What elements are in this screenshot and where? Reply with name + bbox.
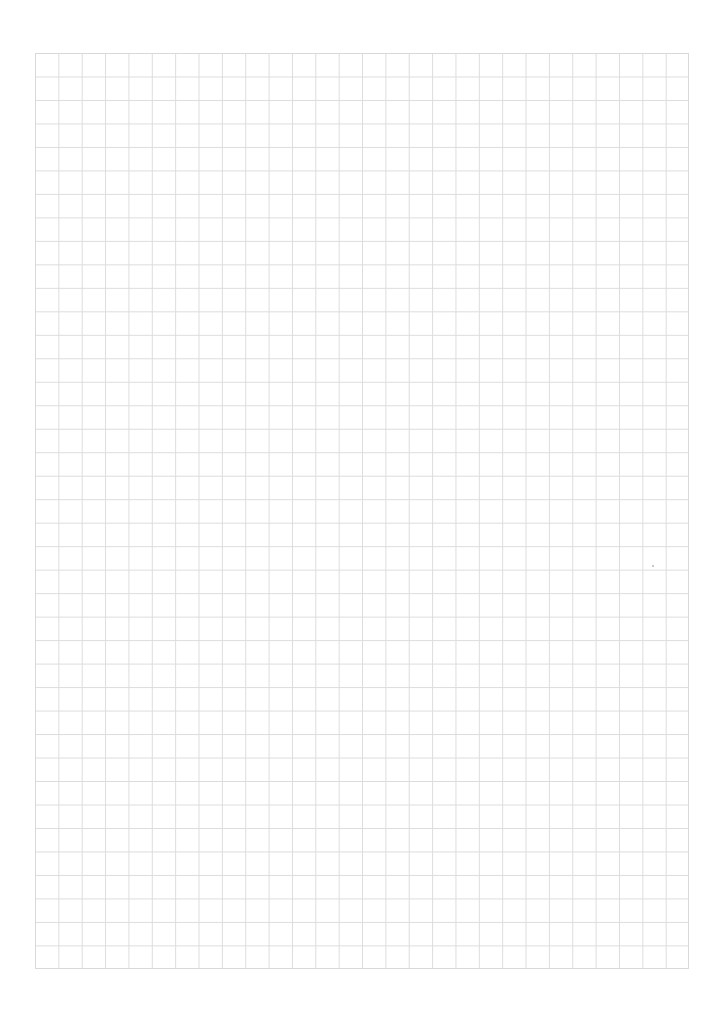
graph-paper-grid xyxy=(35,53,689,969)
stray-mark xyxy=(652,565,654,567)
